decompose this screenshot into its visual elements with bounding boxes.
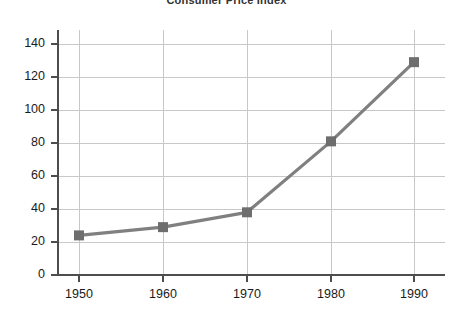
consumer-price-index-chart: Consumer Price Index 020406080100120140 … [0,0,453,314]
y-axis-tick-label: 80 [0,135,45,149]
plot-area [0,0,453,314]
x-axis-tick-label: 1970 [217,287,277,301]
axis-lines [58,30,445,275]
data-point-marker [158,222,168,232]
y-axis-tick-label: 0 [0,267,45,281]
y-axis-tick-label: 100 [0,102,45,116]
y-axis-tick-label: 120 [0,69,45,83]
y-axis-tick-label: 140 [0,36,45,50]
axis-ticks [51,44,414,282]
y-axis-tick-label: 40 [0,201,45,215]
x-axis-tick-label: 1950 [49,287,109,301]
vertical-gridlines [79,30,414,275]
data-point-marker [409,57,419,67]
y-axis-tick-label: 60 [0,168,45,182]
x-axis-tick-label: 1990 [384,287,444,301]
x-axis-tick-label: 1980 [301,287,361,301]
data-point-marker [74,230,84,240]
data-point-marker [242,207,252,217]
data-point-marker [326,136,336,146]
x-axis-tick-label: 1960 [133,287,193,301]
y-axis-tick-label: 20 [0,234,45,248]
